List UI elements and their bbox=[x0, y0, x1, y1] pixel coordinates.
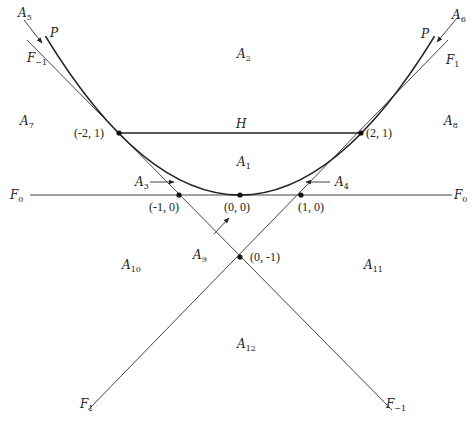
coord-label: (2, 1) bbox=[366, 126, 392, 140]
label-f1-bottom: F1 bbox=[79, 397, 93, 413]
region-a11: A11 bbox=[363, 258, 383, 274]
coord-label: (-1, 0) bbox=[149, 200, 179, 214]
label-p-left: P bbox=[49, 26, 59, 40]
region-a2: A2 bbox=[236, 47, 251, 63]
region-a1: A1 bbox=[236, 155, 251, 171]
point-0-0 bbox=[237, 192, 242, 197]
label-f-minus1-top: F−1 bbox=[26, 51, 47, 67]
label-f1-top: F1 bbox=[445, 53, 459, 69]
arrow-a9 bbox=[214, 218, 229, 234]
coord-label: (0, 0) bbox=[224, 200, 250, 214]
point-minus2-1 bbox=[116, 130, 121, 135]
arrow-a5 bbox=[24, 20, 42, 43]
point-0-minus1 bbox=[237, 254, 242, 259]
line-f-minus-1 bbox=[27, 40, 392, 410]
label-f-minus1-bottom: F−1 bbox=[385, 397, 406, 413]
region-a4: A4 bbox=[334, 175, 349, 191]
point-minus1-0 bbox=[176, 192, 181, 197]
region-a10: A10 bbox=[121, 258, 141, 274]
coord-label: (-2, 1) bbox=[74, 126, 104, 140]
region-a9: A9 bbox=[192, 248, 207, 264]
parabola-tangent-diagram: (-2, 1) (2, 1) (-1, 0) (0, 0) (1, 0) (0,… bbox=[0, 0, 476, 424]
region-a3: A3 bbox=[134, 175, 149, 191]
region-a7: A7 bbox=[19, 114, 34, 130]
region-a6: A6 bbox=[451, 8, 466, 24]
label-h: H bbox=[235, 117, 247, 131]
coord-label: (0, -1) bbox=[250, 250, 280, 264]
region-a8: A8 bbox=[443, 114, 458, 130]
coord-label: (1, 0) bbox=[298, 200, 324, 214]
label-f0-right: F0 bbox=[453, 188, 467, 204]
label-f0-left: F0 bbox=[9, 188, 23, 204]
region-a12: A12 bbox=[236, 337, 256, 353]
region-a5: A5 bbox=[17, 6, 32, 22]
point-1-0 bbox=[298, 192, 303, 197]
label-p-right: P bbox=[420, 27, 430, 41]
point-2-1 bbox=[358, 130, 363, 135]
